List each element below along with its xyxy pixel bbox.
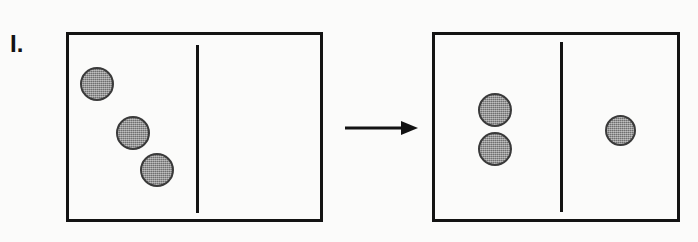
particle-before-left-3 <box>140 153 174 187</box>
particle-before-left-1 <box>80 67 114 101</box>
figure-label: I. <box>10 32 23 56</box>
divider-line-before <box>196 45 199 213</box>
particle-after-left-2 <box>478 132 512 166</box>
particle-after-left-1 <box>478 93 512 127</box>
particle-after-right-3 <box>605 115 636 146</box>
figure-canvas: I. <box>0 0 698 242</box>
arrow-head <box>401 121 418 135</box>
container-box-before <box>66 32 323 222</box>
particle-before-left-2 <box>116 116 150 150</box>
transition-arrow-icon <box>345 118 418 138</box>
container-box-after <box>432 32 680 222</box>
arrow-right-icon <box>345 118 418 138</box>
divider-line-after <box>560 42 563 212</box>
